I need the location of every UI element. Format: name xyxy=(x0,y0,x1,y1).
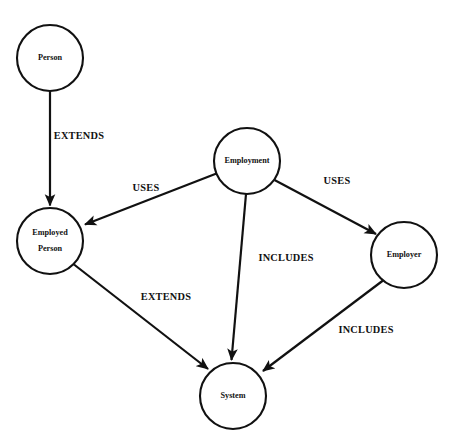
edge-label-extends-system: EXTENDS xyxy=(141,291,191,302)
edge-person-extends-employed-person: EXTENDS xyxy=(50,91,104,206)
edge-line-employment-employer xyxy=(275,180,377,234)
node-label-employed-person-line1: Employed xyxy=(32,228,68,237)
edge-employment-uses-employed-person: USES xyxy=(85,174,217,225)
edge-employed-person-extends-system: EXTENDS xyxy=(74,265,208,370)
edge-label-includes-employer: INCLUDES xyxy=(338,324,393,335)
edge-label-extends-person: EXTENDS xyxy=(54,130,104,141)
edge-line-employment-employed-person xyxy=(85,174,217,225)
node-employment[interactable]: Employment xyxy=(214,128,280,194)
edge-employment-uses-employer: USES xyxy=(275,175,377,234)
node-employed-person[interactable]: Employed Person xyxy=(17,208,83,274)
node-system[interactable]: System xyxy=(200,363,266,429)
edge-line-employed-person-system xyxy=(74,265,208,370)
node-employer[interactable]: Employer xyxy=(371,222,437,288)
node-label-employment: Employment xyxy=(224,156,269,165)
edge-employment-includes-system: INCLUDES xyxy=(232,194,314,360)
node-label-employer: Employer xyxy=(387,250,422,259)
edge-line-employment-system xyxy=(232,194,247,360)
graph-diagram: EXTENDS USES USES INCLUDES EXTENDS xyxy=(0,0,454,447)
node-group: Person Employed Person Employment Employ… xyxy=(17,25,437,429)
node-label-employed-person-line2: Person xyxy=(38,244,63,253)
edge-employer-includes-system: INCLUDES xyxy=(263,281,394,372)
edge-label-uses-employed-person: USES xyxy=(133,182,160,193)
edge-label-includes-employment: INCLUDES xyxy=(258,252,313,263)
node-label-person: Person xyxy=(38,53,63,62)
graph-canvas: EXTENDS USES USES INCLUDES EXTENDS xyxy=(0,0,454,447)
node-person[interactable]: Person xyxy=(17,25,83,91)
node-label-system: System xyxy=(220,391,245,400)
edge-label-uses-employer: USES xyxy=(324,175,351,186)
edge-group: EXTENDS USES USES INCLUDES EXTENDS xyxy=(50,91,394,371)
node-circle-employed-person[interactable] xyxy=(17,208,83,274)
